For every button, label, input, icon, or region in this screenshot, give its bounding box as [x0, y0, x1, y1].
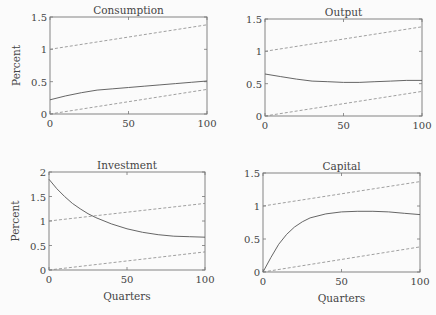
- series-response: [263, 211, 420, 272]
- series-upper-band: [50, 25, 207, 50]
- panel-capital: Capital00.511.5050100Quarters: [244, 160, 429, 304]
- plot-frame: [265, 19, 422, 116]
- x-tick-label: 0: [260, 276, 266, 287]
- y-axis-label: Percent: [10, 44, 22, 86]
- x-axis-label: Quarters: [103, 290, 151, 302]
- x-tick-label: 50: [122, 118, 135, 129]
- series-upper-band: [265, 27, 422, 52]
- series-response: [49, 179, 205, 237]
- x-tick-label: 50: [335, 276, 348, 287]
- panel-consumption: Consumption00.511.5050100Percent: [10, 4, 217, 129]
- series-lower-band: [265, 91, 422, 116]
- y-tick-label: 1: [41, 44, 47, 55]
- panel-investment: Investment00.511.52050100PercentQuarters: [9, 159, 215, 302]
- panel-title: Capital: [322, 160, 361, 172]
- y-axis-label: Percent: [9, 200, 21, 242]
- figure: Consumption00.511.5050100PercentOutput00…: [0, 0, 436, 315]
- x-tick-label: 100: [412, 120, 431, 131]
- series-response: [265, 74, 422, 82]
- x-tick-label: 0: [46, 274, 52, 285]
- y-tick-label: 1: [254, 201, 260, 212]
- x-axis-label: Quarters: [318, 292, 366, 304]
- y-tick-label: 0.5: [31, 77, 47, 88]
- plot-frame: [263, 173, 420, 272]
- x-tick-label: 0: [47, 118, 53, 129]
- y-tick-label: 0.5: [246, 79, 262, 90]
- series-response: [50, 81, 207, 100]
- y-tick-label: 1.5: [31, 12, 47, 23]
- series-upper-band: [49, 203, 205, 221]
- panel-title: Investment: [97, 159, 158, 171]
- x-tick-label: 100: [195, 274, 214, 285]
- x-tick-label: 50: [121, 274, 134, 285]
- plot-frame: [49, 172, 205, 270]
- panel-title: Output: [325, 6, 363, 18]
- y-tick-label: 1.5: [244, 168, 260, 179]
- series-upper-band: [263, 182, 420, 206]
- x-tick-label: 50: [337, 120, 350, 131]
- y-tick-label: 2: [40, 167, 46, 178]
- x-tick-label: 0: [262, 120, 268, 131]
- y-tick-label: 1: [256, 46, 262, 57]
- series-lower-band: [263, 247, 420, 272]
- x-tick-label: 100: [410, 276, 429, 287]
- y-tick-label: 1: [40, 216, 46, 227]
- y-tick-label: 1.5: [246, 14, 262, 25]
- series-lower-band: [50, 89, 207, 114]
- plot-frame: [50, 17, 207, 114]
- x-tick-label: 100: [197, 118, 216, 129]
- y-tick-label: 0.5: [30, 241, 46, 252]
- panel-output: Output00.511.5050100: [246, 6, 431, 131]
- panel-title: Consumption: [93, 4, 164, 16]
- y-tick-label: 0.5: [244, 234, 260, 245]
- y-tick-label: 1.5: [30, 192, 46, 203]
